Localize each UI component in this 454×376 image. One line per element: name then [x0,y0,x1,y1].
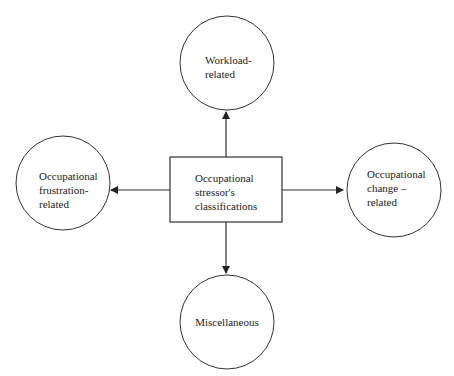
frustration-label-line-1: Occupational [39,170,98,182]
change-label-line-3: related [367,196,397,208]
change-label-line-1: Occupational [367,168,426,180]
workload-label-line-2: related [205,68,235,80]
miscellaneous-node: Miscellaneous [180,275,274,369]
frustration-label-line-2: frustration- [39,184,89,196]
center-node: Occupational stressor's classifications [170,157,282,222]
center-label-line-2: stressor's [195,186,235,198]
change-node: Occupational change – related [347,143,441,237]
center-label-line-3: classifications [195,200,257,212]
frustration-node: Occupational frustration- related [16,136,110,230]
workload-node: Workload- related [180,16,274,110]
workload-label-line-1: Workload- [205,54,252,66]
stressor-classification-diagram: Occupational stressor's classifications … [0,0,454,376]
miscellaneous-label: Miscellaneous [195,316,259,328]
change-label-line-2: change – [367,182,407,194]
frustration-label-line-3: related [39,198,69,210]
center-label-line-1: Occupational [195,172,254,184]
